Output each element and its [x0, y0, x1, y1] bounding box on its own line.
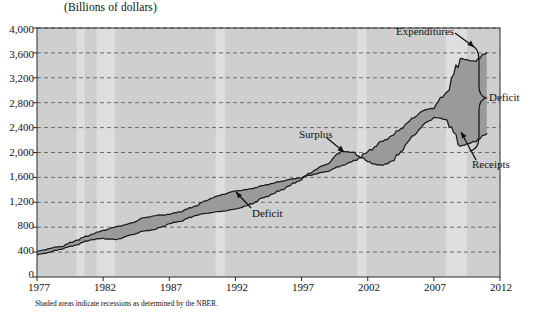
- annotation-deficit-mid: Deficit: [252, 207, 283, 219]
- annotation-deficit-right: Deficit: [489, 91, 520, 103]
- plot-area: [0, 0, 533, 314]
- annotation-surplus: Surplus: [299, 128, 333, 140]
- budget-chart-figure: (Billions of dollars) 0 400 800 1,200 1,…: [0, 0, 533, 314]
- chart-footnote: Shaded areas indicate recessions as dete…: [35, 299, 218, 308]
- annotation-receipts: Receipts: [472, 158, 510, 170]
- annotation-expenditures: Expenditures: [396, 25, 454, 37]
